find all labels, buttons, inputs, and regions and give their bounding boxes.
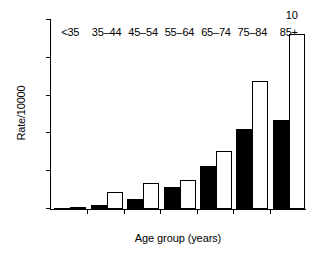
bar-group: [200, 20, 232, 209]
bar-group: [127, 20, 159, 209]
bar-open: [180, 180, 196, 209]
bar-group: [54, 20, 86, 209]
bar-solid: [200, 166, 216, 209]
bar-group: [91, 20, 123, 209]
bar-group: [273, 20, 305, 209]
x-axis-tick-label: 75–84: [238, 27, 268, 38]
x-axis-tick-label: 65–74: [201, 27, 231, 38]
bar-open: [143, 183, 159, 209]
x-axis-tick-label: <35: [61, 27, 79, 38]
x-axis-tick: [197, 209, 198, 214]
x-axis-tick: [87, 209, 88, 214]
x-axis-tick: [233, 209, 234, 214]
x-axis-tick: [160, 209, 161, 214]
bar-solid: [127, 199, 143, 209]
bar-group: [164, 20, 196, 209]
bar-chart-figure: Rate/10000 0246810 <3535–4445–5455–6465–…: [0, 0, 320, 254]
x-axis-tick: [270, 209, 271, 214]
x-axis-tick-label: 85+: [280, 27, 298, 38]
bar-solid: [164, 187, 180, 209]
y-axis-tick-label: 10: [286, 10, 298, 21]
bar-solid: [91, 205, 107, 209]
bars-container: [51, 20, 306, 209]
bar-solid: [54, 208, 70, 209]
plot-area: 0246810 <3535–4445–5455–6465–7475–8485+: [50, 20, 306, 210]
x-axis-tick-label: 45–54: [128, 27, 158, 38]
bar-open: [289, 34, 305, 209]
bar-group: [236, 20, 268, 209]
bar-open: [70, 207, 86, 209]
bar-open: [216, 151, 232, 209]
bar-open: [107, 192, 123, 209]
bar-open: [252, 81, 268, 209]
bar-solid: [273, 120, 289, 209]
bar-solid: [236, 129, 252, 210]
x-axis-tick-label: 35–44: [92, 27, 122, 38]
x-axis-tick-label: 55–64: [165, 27, 195, 38]
y-axis-label: Rate/10000: [14, 18, 28, 208]
x-axis-label: Age group (years): [50, 232, 306, 244]
x-axis-tick: [124, 209, 125, 214]
